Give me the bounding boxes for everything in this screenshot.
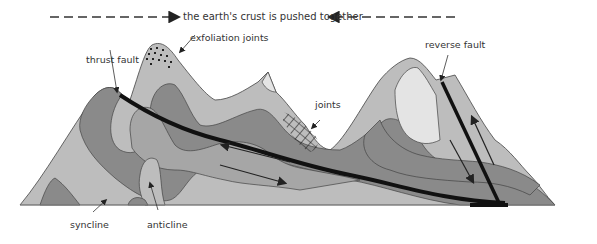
label-reverse-fault: reverse fault (425, 40, 485, 50)
fold-and-fault-diagram (0, 0, 597, 244)
label-joints: joints (315, 100, 341, 110)
label-syncline: syncline (70, 220, 109, 230)
label-exfoliation-joints: exfoliation joints (190, 33, 269, 43)
compression-caption: the earth's crust is pushed together (183, 12, 363, 22)
label-anticline: anticline (147, 220, 188, 230)
label-thrust-fault: thrust fault (86, 55, 139, 65)
